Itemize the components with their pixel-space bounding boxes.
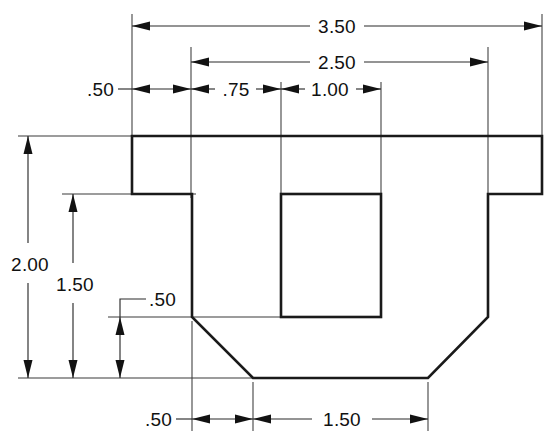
dim-label-chamfer-height: .50 <box>149 289 176 310</box>
arrow-bottom-flat-right <box>410 415 428 424</box>
arrow-left-flange-right <box>173 85 191 94</box>
arrow-left-web-right <box>263 85 281 94</box>
arrow-overall-width-right <box>524 22 542 31</box>
arrow-left-web-left <box>191 85 209 94</box>
dimension-web-height: 1.50 <box>56 194 94 378</box>
arrow-web-height-top <box>69 194 78 212</box>
dimension-square-width: 1.00 <box>281 79 381 100</box>
drawing-svg: 3.50 2.50 .50 .75 <box>0 0 553 431</box>
part-outline-group <box>132 136 542 378</box>
engineering-drawing-canvas: 3.50 2.50 .50 .75 <box>0 0 553 431</box>
dimension-inner-span: 2.50 <box>191 52 488 73</box>
arrow-bottom-left-offset-left <box>192 415 210 424</box>
dimension-overall-width: 3.50 <box>132 16 542 37</box>
dim-label-left-web: .75 <box>222 79 249 100</box>
dim-label-square-width: 1.00 <box>311 79 349 100</box>
dim-label-bottom-flat: 1.50 <box>323 409 361 430</box>
arrow-overall-height-bottom <box>24 360 33 378</box>
dim-label-overall-height: 2.00 <box>11 254 49 275</box>
arrow-bottom-flat-left <box>253 415 271 424</box>
arrow-overall-height-top <box>24 136 33 154</box>
dim-label-left-flange: .50 <box>87 79 114 100</box>
dim-label-overall-width: 3.50 <box>318 16 356 37</box>
part-outline <box>132 136 542 378</box>
dimension-bottom-flat: 1.50 <box>253 409 428 430</box>
dimension-bottom-left-offset: .50 <box>145 409 253 430</box>
inner-square-cutout <box>281 194 381 317</box>
arrow-square-width-left <box>281 85 299 94</box>
dimension-overall-height: 2.00 <box>11 136 49 378</box>
arrow-overall-width-left <box>132 22 150 31</box>
dim-label-web-height: 1.50 <box>56 274 94 295</box>
arrow-left-flange-left <box>132 85 150 94</box>
arrow-inner-span-right <box>470 58 488 67</box>
dim-label-inner-span: 2.50 <box>318 52 356 73</box>
dimension-chamfer-height: .50 <box>116 289 177 378</box>
arrow-bottom-left-offset-right <box>235 415 253 424</box>
arrow-web-height-bottom <box>69 360 78 378</box>
arrow-square-width-right <box>363 85 381 94</box>
dim-label-bottom-left-offset: .50 <box>145 409 172 430</box>
leader-chamfer-height <box>120 299 146 317</box>
dimension-left-web: .75 <box>191 79 281 100</box>
arrow-chamfer-height-bottom <box>116 360 125 378</box>
dimension-left-flange: .50 <box>87 79 191 100</box>
arrow-chamfer-height-top <box>116 317 125 335</box>
arrow-inner-span-left <box>191 58 209 67</box>
